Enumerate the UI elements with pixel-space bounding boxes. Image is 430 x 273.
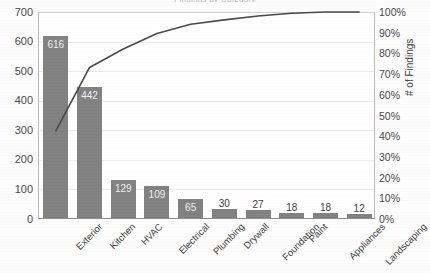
y-axis-left-tick: 0 [0,214,33,225]
y-axis-right-tick: 30% [379,152,413,163]
y-axis-left-tick: 500 [0,66,33,77]
x-axis-label: Landscaping [383,221,429,267]
x-axis-label: Exterior [73,221,104,252]
y-axis-left-tick: 400 [0,95,33,106]
y-axis-right-tick: 10% [379,193,413,204]
y-axis-right-tick: 40% [379,131,413,142]
x-axis-category-labels: ExteriorKitchenHVACElectricalPlumbingDry… [38,221,375,273]
y-axis-right-tick: 50% [379,111,413,122]
y-axis-right-title: # of Findings [404,39,415,96]
y-axis-left-tick: 600 [0,36,33,47]
y-axis-left-tick: 100 [0,184,33,195]
y-axis-left-tick: 200 [0,154,33,165]
x-axis-label: HVAC [139,221,165,247]
plot-area: 616442129109653027181812 [38,12,375,219]
x-axis-label: Plumbing [210,221,246,257]
x-axis-label: Appliances [347,221,388,262]
cumulative-line-series [39,12,376,219]
chart-title: Findings by Category [0,0,430,2]
y-axis-left-tick: 700 [0,7,33,18]
cumulative-line-path [56,12,359,131]
y-axis-right-tick: 20% [379,173,413,184]
y-axis-right-tick: 90% [379,28,413,39]
x-axis-label: Electrical [176,221,211,256]
x-axis-label: Kitchen [107,221,137,251]
x-axis-label: Drywall [241,221,271,251]
y-axis-left-tick: 300 [0,125,33,136]
y-axis-right-tick: 100% [379,7,413,18]
pareto-chart: Findings by Category 0100200300400500600… [0,0,430,273]
y-axis-right-tick: 0% [379,214,413,225]
